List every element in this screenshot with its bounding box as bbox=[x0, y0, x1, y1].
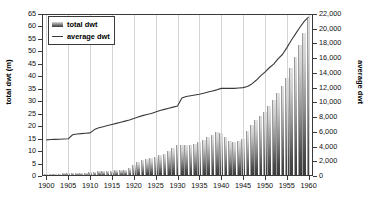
y-left-label-65: 65 bbox=[6, 10, 36, 17]
y-right-label-18000: 18,000 bbox=[319, 39, 341, 46]
x-tick-1900 bbox=[46, 176, 47, 180]
y-right-tick-6000 bbox=[313, 132, 317, 133]
y-right-tick-8000 bbox=[313, 117, 317, 118]
y-left-label-10: 10 bbox=[6, 147, 36, 154]
x-tick-1945 bbox=[243, 176, 244, 180]
x-tick-1935 bbox=[199, 176, 200, 180]
y-right-tick-2000 bbox=[313, 161, 317, 162]
x-tick-1925 bbox=[156, 176, 157, 180]
y-right-label-8000: 8,000 bbox=[319, 113, 337, 120]
y-left-tick-10 bbox=[38, 151, 42, 152]
y-left-tick-20 bbox=[38, 126, 42, 127]
y-left-label-0: 0 bbox=[6, 172, 36, 179]
y-axis-left-title: total dwt (m) bbox=[5, 47, 13, 117]
x-tick-1930 bbox=[178, 176, 179, 180]
x-tick-1915 bbox=[112, 176, 113, 180]
y-right-tick-0 bbox=[313, 176, 317, 177]
legend-label-total-dwt: total dwt bbox=[67, 21, 97, 29]
y-left-tick-25 bbox=[38, 114, 42, 115]
y-left-label-20: 20 bbox=[6, 122, 36, 129]
y-right-label-16000: 16,000 bbox=[319, 54, 341, 61]
y-left-tick-65 bbox=[38, 14, 42, 15]
y-right-label-6000: 6,000 bbox=[319, 128, 337, 135]
y-right-label-14000: 14,000 bbox=[319, 69, 341, 76]
y-right-label-12000: 12,000 bbox=[319, 84, 341, 91]
legend-item-average-dwt: average dwt bbox=[52, 31, 110, 42]
y-right-label-0: 0 bbox=[319, 172, 323, 179]
x-tick-1955 bbox=[287, 176, 288, 180]
y-left-label-55: 55 bbox=[6, 35, 36, 42]
y-axis-right-title: average dwt bbox=[356, 47, 364, 117]
x-tick-1950 bbox=[265, 176, 266, 180]
legend-label-average-dwt: average dwt bbox=[67, 33, 110, 41]
y-right-tick-10000 bbox=[313, 102, 317, 103]
y-right-tick-14000 bbox=[313, 73, 317, 74]
x-tick-1920 bbox=[134, 176, 135, 180]
y-left-tick-0 bbox=[38, 176, 42, 177]
y-right-tick-22000 bbox=[313, 14, 317, 15]
y-left-tick-45 bbox=[38, 64, 42, 65]
x-label-1960: 1960 bbox=[296, 182, 322, 190]
x-tick-1940 bbox=[221, 176, 222, 180]
y-left-tick-15 bbox=[38, 139, 42, 140]
legend-swatch-bar-icon bbox=[52, 22, 63, 27]
y-left-tick-60 bbox=[38, 26, 42, 27]
y-right-tick-20000 bbox=[313, 29, 317, 30]
y-right-label-22000: 22,000 bbox=[319, 10, 341, 17]
y-right-label-20000: 20,000 bbox=[319, 25, 341, 32]
y-left-tick-30 bbox=[38, 101, 42, 102]
y-left-tick-5 bbox=[38, 164, 42, 165]
y-left-label-15: 15 bbox=[6, 135, 36, 142]
legend-swatch-line-icon bbox=[52, 34, 63, 39]
y-left-label-60: 60 bbox=[6, 22, 36, 29]
x-tick-1960 bbox=[309, 176, 310, 180]
y-left-tick-35 bbox=[38, 89, 42, 90]
legend-item-total-dwt: total dwt bbox=[52, 19, 110, 30]
y-right-tick-18000 bbox=[313, 43, 317, 44]
y-left-tick-40 bbox=[38, 76, 42, 77]
y-right-label-2000: 2,000 bbox=[319, 157, 337, 164]
x-tick-1910 bbox=[90, 176, 91, 180]
chart-legend: total dwt average dwt bbox=[48, 16, 115, 45]
y-right-label-10000: 10,000 bbox=[319, 98, 341, 105]
x-tick-1905 bbox=[68, 176, 69, 180]
y-left-tick-55 bbox=[38, 39, 42, 40]
y-right-label-4000: 4,000 bbox=[319, 143, 337, 150]
y-right-tick-16000 bbox=[313, 58, 317, 59]
y-right-tick-12000 bbox=[313, 88, 317, 89]
y-left-tick-50 bbox=[38, 51, 42, 52]
chart-container: 05101520253035404550556065 02,0004,0006,… bbox=[0, 0, 367, 207]
y-right-tick-4000 bbox=[313, 147, 317, 148]
y-left-label-5: 5 bbox=[6, 160, 36, 167]
